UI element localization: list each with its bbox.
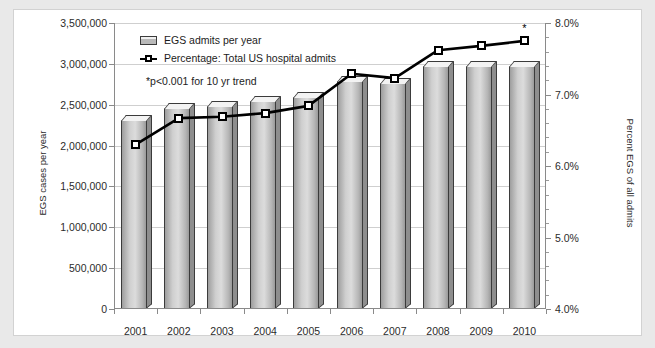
chart-figure: EGS cases per year Percent EGS of all ad… xyxy=(13,9,642,336)
line-marker xyxy=(434,46,443,55)
line-marker xyxy=(304,101,313,110)
line-marker xyxy=(347,69,356,78)
secondary-y-minor-tick xyxy=(546,223,549,224)
y-axis-line xyxy=(114,23,115,309)
y-tick-label: 3,500,000 xyxy=(60,17,107,29)
y-tick-label: 500,000 xyxy=(69,262,107,274)
x-tick-label: 2007 xyxy=(383,325,406,337)
secondary-y-minor-tick xyxy=(546,66,549,67)
secondary-y-minor-tick xyxy=(546,295,549,296)
bar xyxy=(423,61,454,309)
secondary-y-tick xyxy=(546,238,551,239)
secondary-y-tick-label: 4.0% xyxy=(555,303,579,315)
significance-asterisk: * xyxy=(522,22,526,34)
secondary-y-minor-tick xyxy=(546,252,549,253)
x-tick xyxy=(546,309,547,314)
x-tick xyxy=(244,309,245,314)
x-tick xyxy=(416,309,417,314)
bar-front-face xyxy=(423,66,449,309)
secondary-y-tick xyxy=(546,95,551,96)
legend-label-bars: EGS admits per year xyxy=(164,34,261,46)
secondary-y-minor-tick xyxy=(546,266,549,267)
line-marker xyxy=(520,36,529,45)
secondary-y-minor-tick xyxy=(546,137,549,138)
x-tick-label: 2005 xyxy=(297,325,320,337)
x-tick-label: 2008 xyxy=(426,325,449,337)
secondary-y-tick-label: 7.0% xyxy=(555,89,579,101)
bar-front-face xyxy=(509,66,535,309)
line-marker xyxy=(477,41,486,50)
bar xyxy=(509,61,540,309)
line-marker xyxy=(261,109,270,118)
x-tick-label: 2004 xyxy=(254,325,277,337)
secondary-y-minor-tick xyxy=(546,123,549,124)
x-tick xyxy=(460,309,461,314)
secondary-y-minor-tick xyxy=(546,80,549,81)
secondary-y-minor-tick xyxy=(546,152,549,153)
secondary-y-minor-tick xyxy=(546,280,549,281)
secondary-y-minor-tick xyxy=(546,52,549,53)
secondary-y-minor-tick xyxy=(546,109,549,110)
y-tick-label: 2,500,000 xyxy=(60,99,107,111)
x-axis-line xyxy=(114,308,546,309)
line-square-swatch-icon xyxy=(140,54,157,63)
secondary-y-tick-label: 8.0% xyxy=(555,17,579,29)
x-tick-label: 2010 xyxy=(513,325,536,337)
x-tick xyxy=(503,309,504,314)
legend-label-line: Percentage: Total US hospital admits xyxy=(164,52,336,64)
x-tick xyxy=(114,309,115,314)
legend-item-line: Percentage: Total US hospital admits xyxy=(140,52,336,64)
y-tick-label: 1,500,000 xyxy=(60,180,107,192)
x-tick-label: 2002 xyxy=(167,325,190,337)
y-tick-label: 0 xyxy=(101,303,107,315)
secondary-y-tick-label: 6.0% xyxy=(555,160,579,172)
legend-item-bars: EGS admits per year xyxy=(140,34,336,46)
secondary-y-minor-tick xyxy=(546,37,549,38)
x-tick xyxy=(373,309,374,314)
secondary-y-minor-tick xyxy=(546,195,549,196)
x-tick xyxy=(287,309,288,314)
y-tick-label: 3,000,000 xyxy=(60,58,107,70)
plot-area: 0500,0001,000,0001,500,0002,000,0002,500… xyxy=(114,23,546,309)
x-tick-label: 2006 xyxy=(340,325,363,337)
x-tick xyxy=(157,309,158,314)
y-tick-label: 1,000,000 xyxy=(60,221,107,233)
bar-top-face xyxy=(509,61,540,67)
secondary-y-tick xyxy=(546,166,551,167)
significance-annotation: *p<0.001 for 10 yr trend xyxy=(146,75,257,87)
secondary-y-axis-title: Percent EGS of all admits xyxy=(626,118,637,227)
secondary-y-minor-tick xyxy=(546,209,549,210)
line-marker xyxy=(131,140,140,149)
secondary-y-axis-line xyxy=(545,23,546,309)
bar-front-face xyxy=(466,66,492,309)
x-tick-label: 2001 xyxy=(124,325,147,337)
x-tick xyxy=(330,309,331,314)
line-marker xyxy=(390,74,399,83)
y-tick-label: 2,000,000 xyxy=(60,140,107,152)
line-marker xyxy=(174,114,183,123)
bar-swatch-icon xyxy=(140,36,157,45)
y-axis-title: EGS cases per year xyxy=(37,130,48,215)
bar xyxy=(466,61,497,309)
line-marker xyxy=(218,112,227,121)
secondary-y-tick-label: 5.0% xyxy=(555,232,579,244)
secondary-y-tick xyxy=(546,23,551,24)
x-tick-label: 2009 xyxy=(470,325,493,337)
secondary-y-minor-tick xyxy=(546,180,549,181)
chart-legend: EGS admits per year Percentage: Total US… xyxy=(140,34,336,70)
x-tick-label: 2003 xyxy=(210,325,233,337)
x-tick xyxy=(200,309,201,314)
